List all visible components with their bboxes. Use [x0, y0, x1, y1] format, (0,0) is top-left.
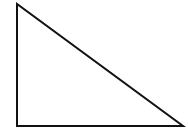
triangle-shape	[17, 4, 183, 126]
drawing-canvas	[0, 0, 188, 135]
triangle-figure	[0, 0, 188, 135]
